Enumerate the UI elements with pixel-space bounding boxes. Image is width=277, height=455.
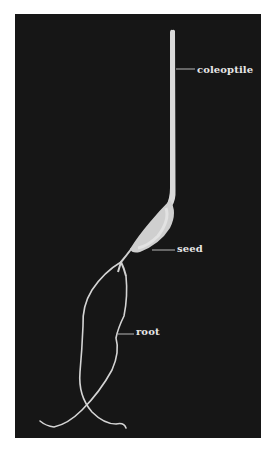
root-label: root bbox=[136, 327, 160, 337]
root-left bbox=[80, 262, 126, 428]
coleoptile-shape bbox=[166, 30, 176, 206]
root-right bbox=[40, 276, 127, 427]
coleoptile-label: coleoptile bbox=[197, 65, 253, 75]
seedling-figure: coleoptile seed root bbox=[0, 0, 277, 455]
seed-label: seed bbox=[177, 244, 203, 254]
